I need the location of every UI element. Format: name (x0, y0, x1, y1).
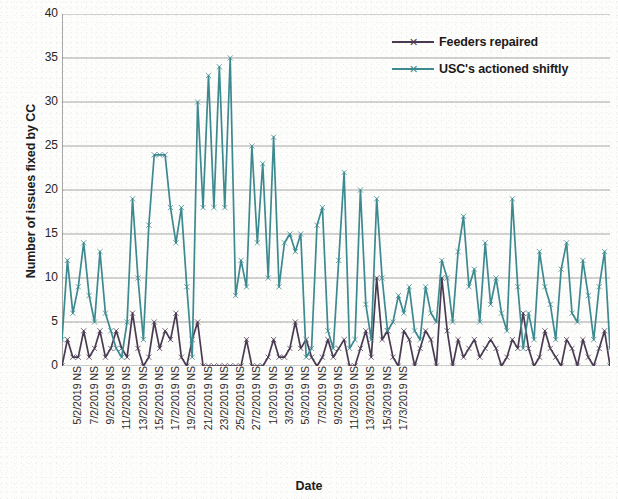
chart-legend: ✕Feeders repaired✕USC's actioned shiftly (392, 28, 608, 82)
x-tick-label: 13/2/2019 NS (137, 366, 149, 430)
x-tick-label: 11/2/2019 NS (120, 366, 132, 429)
y-tick-label: 10 (32, 270, 58, 284)
legend-line-swatch-icon: ✕ (392, 63, 434, 75)
legend-item-label: USC's actioned shiftly (439, 62, 568, 76)
series-2 (62, 55, 610, 359)
x-tick-label: 9/3/2019 NS (332, 366, 344, 424)
y-tick-label: 20 (32, 182, 58, 196)
x-tick-label: 17/3/2019 NS (397, 366, 409, 430)
x-tick-label: 23/2/2019 NS (218, 366, 230, 430)
y-tick-label: 15 (32, 226, 58, 240)
x-tick-label: 9/2/2019 NS (104, 366, 116, 424)
y-axis-tick-labels: 0510152025303540 (26, 0, 58, 380)
legend-item[interactable]: ✕USC's actioned shiftly (392, 55, 608, 82)
x-tick-label: 1/3/2019 NS (267, 366, 279, 424)
x-tick-label: 7/3/2019 NS (316, 366, 328, 424)
x-tick-label: 5/3/2019 NS (299, 366, 311, 424)
legend-line-swatch-icon: ✕ (392, 36, 434, 48)
x-tick-label: 5/2/2019 NS (71, 366, 83, 424)
legend-item[interactable]: ✕Feeders repaired (392, 28, 608, 55)
x-tick-label: 19/2/2019 NS (185, 366, 197, 430)
x-tick-label: 27/2/2019 NS (250, 366, 262, 430)
legend-marker-x-icon: ✕ (408, 64, 418, 74)
x-tick-label: 17/2/2019 NS (169, 366, 181, 430)
line-chart: Number of issues fixed by CC 05101520253… (0, 0, 618, 499)
x-axis-tick-labels: 5/2/2019 NS7/2/2019 NS9/2/2019 NS11/2/20… (62, 366, 618, 478)
y-tick-label: 5 (32, 314, 58, 328)
y-tick-label: 35 (32, 50, 58, 64)
y-tick-label: 30 (32, 94, 58, 108)
x-tick-label: 7/2/2019 NS (88, 366, 100, 424)
x-tick-label: 3/3/2019 NS (283, 366, 295, 424)
x-tick-label: 13/3/2019 NS (364, 366, 376, 430)
x-tick-label: 15/3/2019 NS (381, 366, 393, 430)
x-axis-title: Date (0, 479, 618, 493)
x-tick-label: 21/2/2019 NS (202, 366, 214, 430)
y-tick-label: 0 (32, 358, 58, 372)
x-tick-label: 11/3/2019 NS (348, 366, 360, 429)
legend-item-label: Feeders repaired (439, 35, 538, 49)
legend-marker-x-icon: ✕ (408, 37, 418, 47)
x-tick-label: 15/2/2019 NS (153, 366, 165, 430)
y-tick-label: 25 (32, 138, 58, 152)
y-tick-label: 40 (32, 6, 58, 20)
x-tick-label: 25/2/2019 NS (234, 366, 246, 430)
